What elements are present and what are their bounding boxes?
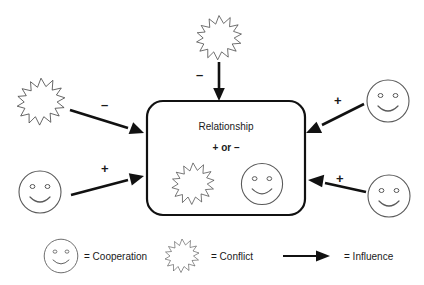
legend-cooperation-smiley-icon — [44, 239, 78, 273]
conflict-burst-icon-left-upper — [17, 78, 65, 125]
cooperation-smiley-icon-left-lower — [19, 171, 61, 213]
conflict-burst-icon-top — [197, 16, 242, 60]
legend-influence-arrow-icon — [283, 251, 330, 262]
legend-label-conflict: = Conflict — [211, 252, 253, 262]
relationship-diagram: Relationship + or – – – + + + = Cooperat… — [0, 0, 424, 285]
center-box-title: Relationship — [147, 122, 305, 132]
legend-label-cooperation: = Cooperation — [84, 252, 147, 262]
cooperation-smiley-icon-right-lower — [368, 175, 410, 217]
sign-label-left-lower: + — [101, 162, 109, 175]
influence-arrow-right-upper — [306, 104, 364, 133]
sign-label-left-upper: – — [101, 98, 108, 111]
sign-label-right-lower: + — [336, 172, 344, 185]
center-box-subtitle: + or – — [147, 143, 305, 153]
sign-label-top: – — [196, 68, 203, 81]
influence-arrow-left-upper — [70, 110, 144, 134]
cooperation-smiley-icon-inside-box — [241, 163, 282, 204]
sign-label-right-upper: + — [334, 94, 342, 107]
influence-arrow-left-lower — [71, 173, 144, 195]
legend-conflict-burst-icon — [165, 239, 199, 273]
influence-arrow-top — [213, 62, 225, 101]
center-relationship-box — [147, 101, 305, 215]
legend-label-influence: = Influence — [344, 252, 393, 262]
cooperation-smiley-icon-right-upper — [367, 80, 409, 122]
